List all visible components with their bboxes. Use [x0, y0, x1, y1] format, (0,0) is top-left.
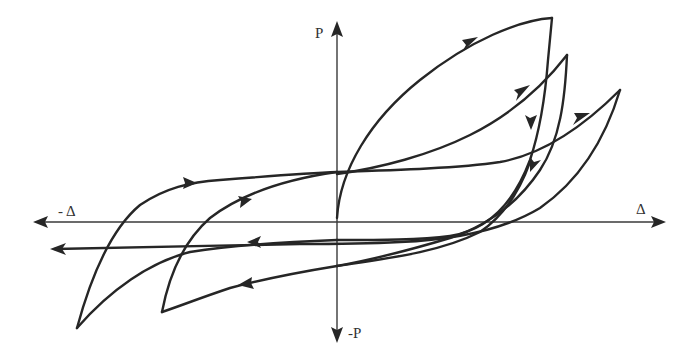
direction-arrows: [50, 37, 590, 289]
hysteresis-plot: [0, 0, 692, 362]
y-axis-negative-label: -P: [348, 326, 361, 341]
loop-3-reverse-branch: [337, 162, 530, 266]
arrow-icon-loop2-up: [514, 85, 530, 101]
arrow-icon-loop1-down: [525, 115, 537, 130]
x-axis-negative-label: - Δ: [58, 204, 76, 219]
loop-1-negative-branch: [77, 240, 337, 328]
loop-1-unloading-branch: [337, 18, 552, 240]
loop-2: [162, 55, 567, 312]
arrow-icon-left-top: [183, 177, 197, 189]
y-axis-positive-label: P: [315, 26, 323, 41]
loop-2-unloading-branch: [162, 55, 567, 312]
arrow-icon-left-mid: [238, 196, 252, 208]
x-axis-positive-label: Δ: [636, 202, 646, 217]
